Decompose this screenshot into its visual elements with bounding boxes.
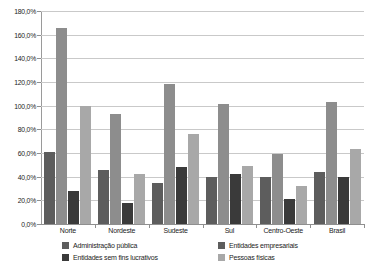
bar (230, 174, 241, 224)
bar (296, 186, 307, 224)
y-axis-tick (37, 224, 41, 225)
bar (284, 199, 295, 224)
legend-label: Administração pública (73, 242, 137, 249)
chart-legend: Administração públicaEntidades sem fins … (0, 240, 369, 268)
legend-item[interactable]: Administração pública (62, 242, 137, 249)
y-axis-tick-label: 100,0% (14, 102, 36, 109)
bar (98, 170, 109, 224)
bar (188, 134, 199, 224)
bar (122, 203, 133, 224)
bar (164, 84, 175, 224)
legend-label: Pessoas físicas (229, 254, 275, 261)
bar-group (310, 11, 364, 224)
bar (350, 149, 361, 224)
x-axis-tick (203, 224, 204, 228)
bar (44, 152, 55, 224)
y-axis-tick-label: 140,0% (14, 55, 36, 62)
bar (218, 104, 229, 224)
bar (272, 154, 283, 224)
y-axis-tick-label: 40,0% (18, 173, 36, 180)
bar-group (203, 11, 257, 224)
y-axis-tick-label: 120,0% (14, 79, 36, 86)
x-axis-tick (310, 224, 311, 228)
y-axis-tick-label: 80,0% (18, 126, 36, 133)
legend-swatch-icon (62, 242, 69, 249)
bar (68, 191, 79, 224)
x-axis-tick-label: Nordeste (108, 227, 135, 234)
bar-group (149, 11, 203, 224)
legend-item[interactable]: Entidades empresariais (218, 242, 298, 249)
legend-item[interactable]: Entidades sem fins lucrativos (62, 254, 158, 261)
legend-swatch-icon (218, 254, 225, 261)
legend-label: Entidades empresariais (229, 242, 298, 249)
legend-label: Entidades sem fins lucrativos (73, 254, 158, 261)
x-axis-tick (364, 224, 365, 228)
x-axis-tick (256, 224, 257, 228)
bar (134, 174, 145, 224)
bar-group (256, 11, 310, 224)
x-axis-tick-label: Centro-Oeste (263, 227, 303, 234)
bar (56, 28, 67, 224)
bar (152, 183, 163, 224)
x-axis-tick-label: Brasil (329, 227, 345, 234)
bar (314, 172, 325, 224)
legend-swatch-icon (62, 254, 69, 261)
y-axis-tick-label: 160,0% (14, 31, 36, 38)
bar (80, 106, 91, 224)
plot-area: 0,0%20,0%40,0%60,0%80,0%100,0%120,0%140,… (41, 11, 364, 224)
bar-group (41, 11, 95, 224)
bar (326, 102, 337, 224)
x-axis-tick (95, 224, 96, 228)
y-axis-tick-label: 20,0% (18, 197, 36, 204)
legend-item[interactable]: Pessoas físicas (218, 254, 275, 261)
bar (242, 166, 253, 224)
y-axis-tick-label: 0,0% (21, 221, 36, 228)
legend-swatch-icon (218, 242, 225, 249)
bar (110, 114, 121, 224)
x-axis-tick-label: Norte (60, 227, 76, 234)
y-axis-tick-label: 60,0% (18, 150, 36, 157)
bar-group (95, 11, 149, 224)
bar (176, 167, 187, 224)
bar-chart: 0,0%20,0%40,0%60,0%80,0%100,0%120,0%140,… (0, 0, 369, 268)
bar (338, 177, 349, 224)
x-axis-tick-label: Sul (225, 227, 235, 234)
y-axis-tick-label: 180,0% (14, 8, 36, 15)
x-axis-tick-label: Sudeste (163, 227, 187, 234)
bar (206, 177, 217, 224)
x-axis-tick (149, 224, 150, 228)
bar (260, 177, 271, 224)
